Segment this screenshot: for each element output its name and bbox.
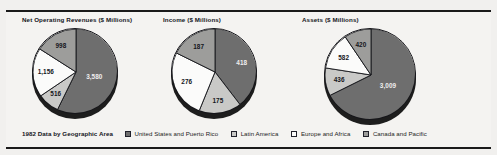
pie-chart-title: Assets ($ Millions) [302,16,359,23]
pie-face [324,28,416,120]
legend-label: Canada and Pacific [373,130,427,137]
legend: 1982 Data by Geographic Area United Stat… [22,130,487,137]
legend-items: United States and Puerto RicoLatin Ameri… [125,130,440,137]
legend-label: United States and Puerto Rico [134,130,218,137]
pie-slice-value: 276 [181,78,192,85]
pie-slice-value: 1,156 [38,68,54,75]
pie-chart-title: Net Operating Revenues ($ Millions) [22,16,132,23]
legend-item: Latin America [231,130,278,137]
pie-slice-value: 436 [334,75,345,82]
bottom-rule [6,147,491,149]
legend-swatch-icon [291,131,297,137]
legend-swatch-icon [125,131,131,137]
pie-slice-value: 3,009 [380,82,396,89]
legend-item: Canada and Pacific [363,130,426,137]
pie-slice-value: 998 [55,42,66,49]
legend-label: Latin America [241,130,279,137]
legend-label: Europe and Africa [301,130,350,137]
legend-swatch-icon [363,131,369,137]
pie-slice-value: 3,580 [86,72,102,79]
legend-title: 1982 Data by Geographic Area [22,130,113,137]
figure-panel: Net Operating Revenues ($ Millions)3,580… [0,0,497,155]
legend-swatch-icon [231,131,237,137]
pie-graphic: 3,009436582420 [324,28,416,126]
pie-slice-value: 420 [355,41,366,48]
pie-slice-value: 418 [236,58,247,65]
pie-slice-value: 516 [50,90,61,97]
pie-slice-value: 175 [212,97,223,104]
pie-graphic: 418175276187 [171,28,257,120]
pie-slice-value: 187 [193,43,204,50]
legend-item: United States and Puerto Rico [125,130,218,137]
pie-slice-value: 582 [338,54,349,61]
pie-graphic: 3,5805161,156998 [32,28,118,120]
pie-chart-title: Income ($ Millions) [163,16,221,23]
legend-item: Europe and Africa [291,130,350,137]
